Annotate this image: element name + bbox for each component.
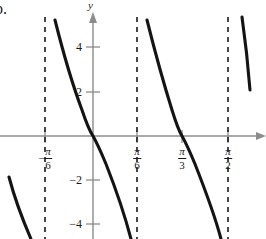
fraction-pi-3: π 3	[178, 146, 186, 171]
part-letter-label: b.	[0, 1, 7, 17]
fraction-denominator: 6	[44, 160, 52, 172]
y-axis-label: y	[88, 0, 93, 11]
plot-canvas	[0, 0, 266, 239]
fraction-numerator: π	[224, 146, 232, 158]
asymptote-lines	[45, 17, 228, 239]
y-axis	[89, 12, 97, 239]
fraction-denominator: 3	[178, 160, 186, 172]
x-tick-label-pi-over-2: π 2	[224, 146, 232, 171]
x-tick-label-pi-over-6: π 6	[133, 146, 141, 171]
fraction-numerator: π	[44, 146, 52, 158]
y-tick-label-4: 4	[76, 41, 82, 53]
fraction-denominator: 6	[133, 160, 141, 172]
curve-branch-partial-left-bottom	[9, 177, 31, 239]
fraction-numerator: π	[178, 146, 186, 158]
fraction-pi-6: π 6	[133, 146, 141, 171]
x-tick-label-pi-over-3: π 3	[178, 146, 186, 171]
fraction-pi-2: π 2	[224, 146, 232, 171]
x-tick-label-neg-pi-over-6: − π 6	[38, 146, 52, 171]
fraction-numerator: π	[133, 146, 141, 158]
curve-branch-pi6-to-pi2	[147, 20, 221, 239]
cotangent-graph-figure: b. y 4 2 −2 −4 − π 6 π 6 π 3 π 2	[0, 0, 266, 239]
y-tick-label-neg-2: −2	[69, 174, 82, 186]
curve-branch-partial-right-top	[242, 17, 250, 90]
fraction-denominator: 2	[224, 160, 232, 172]
y-tick-label-2: 2	[76, 86, 82, 98]
fraction-neg-pi-6: π 6	[44, 146, 52, 171]
y-tick-label-neg-4: −4	[69, 218, 82, 230]
x-axis	[0, 132, 266, 140]
